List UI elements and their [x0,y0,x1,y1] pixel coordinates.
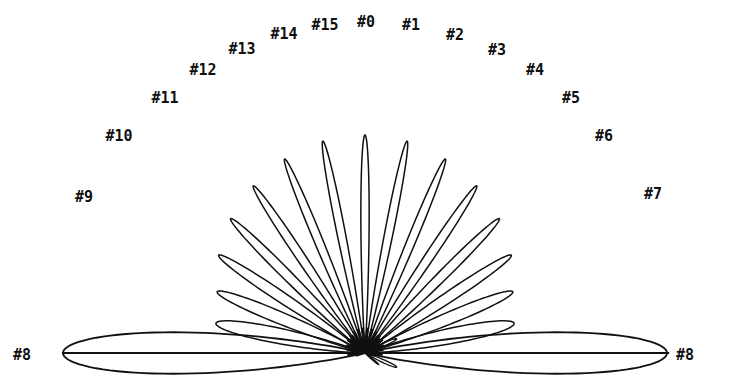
beam-label-10: #10 [105,129,132,144]
beam-label-12: #12 [189,63,216,78]
beam-label-7: #7 [644,187,662,202]
beam-pattern-figure: #0#1#2#3#4#5#6#7#8#8#9#10#11#12#13#14#15 [0,0,731,379]
beam-label-0: #0 [357,15,375,30]
beam-label-9: #9 [75,190,93,205]
beam-label-14: #14 [270,27,297,42]
beam-label-6: #6 [595,129,613,144]
plot-background [0,0,731,379]
beam-label-8-left: #8 [13,348,31,363]
beam-label-11: #11 [151,91,178,106]
beam-label-13: #13 [228,42,255,57]
beam-label-3: #3 [488,43,506,58]
beam-pattern-plot [0,0,731,379]
beam-label-15: #15 [311,18,338,33]
beam-label-5: #5 [562,91,580,106]
beam-label-4: #4 [526,63,544,78]
beam-label-8: #8 [676,348,694,363]
beam-label-1: #1 [402,18,420,33]
beam-label-2: #2 [446,28,464,43]
